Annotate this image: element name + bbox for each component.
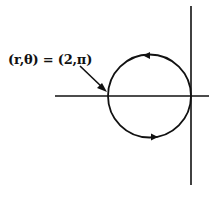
pointer-arrow-line	[80, 66, 103, 88]
direction-arrow-top-icon	[143, 52, 150, 59]
polar-diagram	[0, 0, 217, 201]
point-label: (r,θ) = (2,π)	[8, 52, 92, 67]
direction-arrow-bottom-icon	[151, 134, 158, 141]
